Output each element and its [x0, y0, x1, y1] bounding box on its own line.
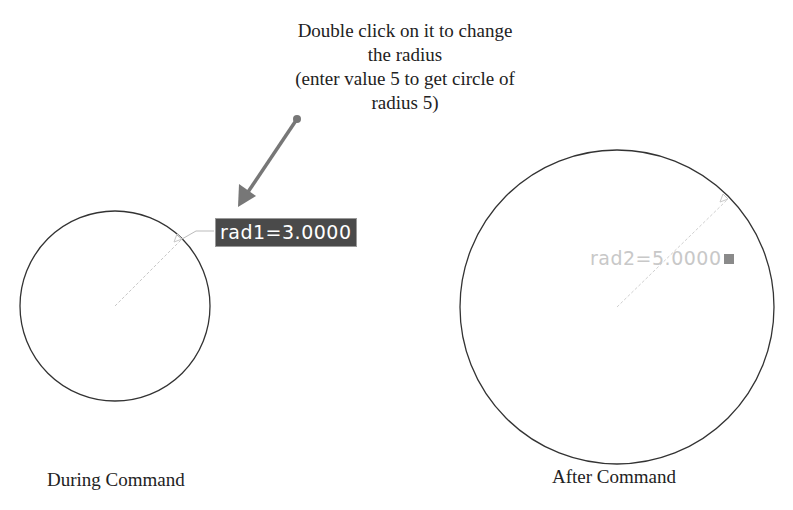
annotation-arrowhead	[238, 184, 256, 207]
dimension-label-rad2[interactable]: rad2=5.0000	[590, 246, 734, 270]
annotation-line: (enter value 5 to get circle of	[240, 67, 570, 91]
dimension-value-rad2: rad2=5.0000	[590, 247, 722, 269]
annotation-line: Double click on it to change	[240, 19, 570, 43]
dimension-input-rad1[interactable]: rad1=3.0000	[215, 218, 357, 247]
caption-after-command: After Command	[552, 466, 676, 488]
lock-icon	[724, 254, 734, 264]
annotation-text: Double click on it to change the radius …	[240, 19, 570, 115]
caption-during-command: During Command	[47, 469, 185, 491]
annotation-line: radius 5)	[240, 91, 570, 115]
annotation-line: the radius	[240, 43, 570, 67]
radius-dimension-line-1	[115, 239, 182, 306]
dimension-leader-1	[182, 231, 196, 239]
annotation-arrow-shaft	[248, 119, 297, 192]
